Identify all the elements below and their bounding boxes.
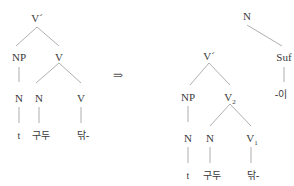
- right-v2-subscript: 2: [232, 98, 236, 106]
- right-suf-leaf: -이: [275, 89, 288, 101]
- right-v1-text: V: [246, 132, 254, 144]
- right-vbar-label: V´: [203, 50, 215, 62]
- left-v-label: V: [55, 51, 63, 63]
- tree-lines: [0, 0, 294, 186]
- right-v1-label: V1: [246, 132, 257, 149]
- left-leaf-noun: 구두: [32, 130, 50, 142]
- right-leaf-noun: 구두: [203, 170, 221, 182]
- right-leaf-verb: 닦-: [247, 170, 260, 182]
- right-suf-label: Suf: [276, 51, 291, 63]
- right-leaf-trace: t: [187, 170, 190, 182]
- transformation-arrow: ⇒: [113, 68, 123, 83]
- left-np-n-label: N: [15, 92, 23, 104]
- left-leaf-verb: 닦-: [77, 130, 90, 142]
- left-np-label: NP: [12, 51, 26, 63]
- right-np-label: NP: [181, 91, 195, 103]
- left-root-label: V´: [31, 12, 43, 24]
- left-v-v-label: V: [77, 92, 85, 104]
- right-root-label: N: [243, 10, 251, 22]
- left-v-n-label: N: [35, 92, 43, 104]
- right-v2-text: V: [224, 91, 232, 103]
- left-leaf-trace: t: [18, 130, 21, 142]
- right-v2-label: V2: [224, 91, 235, 108]
- right-v2-n-label: N: [206, 132, 214, 144]
- right-v1-subscript: 1: [254, 139, 258, 147]
- right-np-n-label: N: [184, 132, 192, 144]
